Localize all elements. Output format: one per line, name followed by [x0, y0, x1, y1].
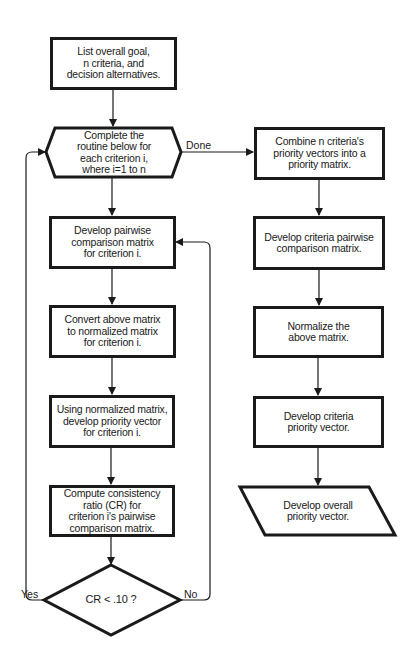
step-criteria-priority-vector: Develop criteria priority vector. — [253, 396, 384, 448]
arrow-yes-loop — [26, 152, 45, 600]
step-criteria-pairwise: Develop criteria pairwise comparison mat… — [253, 216, 385, 270]
decision-node: CR < .10 ? — [66, 590, 156, 610]
start-box: List overall goal, n criteria, and decis… — [50, 37, 177, 90]
arrow-no-loop — [176, 242, 210, 600]
no-label: No — [184, 588, 197, 600]
end-node: Develop overall priority vector. — [262, 490, 374, 532]
step-priority-vector: Using normalized matrix, develop priorit… — [49, 395, 175, 448]
loop-node: Complete the routine below for each crit… — [58, 129, 170, 176]
step-normalize-matrix: Normalize the above matrix. — [253, 306, 384, 358]
done-label: Done — [186, 139, 211, 151]
step-consistency-ratio: Compute consistency ratio (CR) for crite… — [49, 485, 175, 537]
yes-label: Yes — [21, 588, 38, 600]
step-convert-normalized: Convert above matrix to normalized matri… — [49, 305, 176, 358]
step-combine-priority-matrix: Combine n criteria's priority vectors in… — [254, 127, 385, 180]
step-develop-pairwise: Develop pairwise comparison matrix for c… — [49, 216, 176, 269]
